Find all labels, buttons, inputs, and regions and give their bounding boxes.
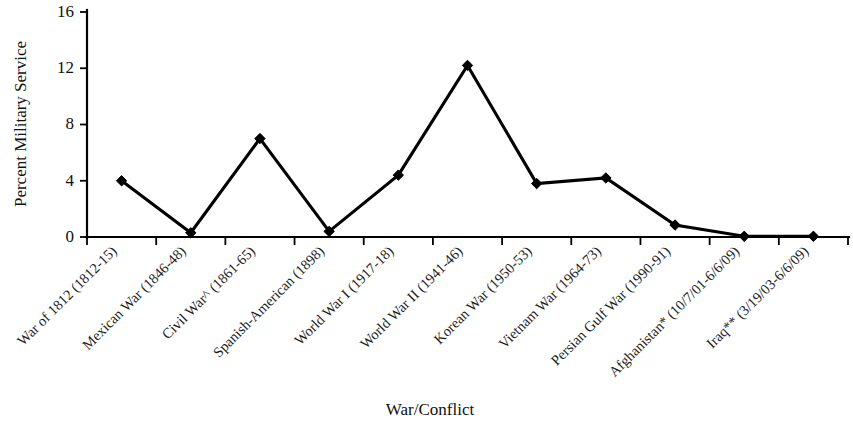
- line-chart: 0481216 War of 1812 (1812-15)Mexican War…: [0, 0, 853, 439]
- x-category-label: Spanish-American (1898): [210, 243, 328, 361]
- y-axis: 0481216: [57, 2, 87, 246]
- y-tick-label: 8: [66, 114, 75, 133]
- y-tick-label: 0: [66, 227, 75, 246]
- y-axis-title: Percent Military Service: [11, 41, 30, 207]
- x-axis: [86, 237, 849, 245]
- y-tick-label: 12: [57, 58, 74, 77]
- x-tick-group: [87, 237, 848, 245]
- y-tick-group: 0481216: [57, 2, 87, 246]
- x-category-label: Persian Gulf War (1990-91): [548, 243, 674, 369]
- data-point-marker: [808, 231, 818, 241]
- series-line-percent-military-service: [122, 65, 814, 236]
- data-point-marker: [739, 231, 749, 241]
- category-label-group: War of 1812 (1812-15)Mexican War (1846-4…: [14, 243, 813, 381]
- chart-container: 0481216 War of 1812 (1812-15)Mexican War…: [0, 0, 853, 439]
- x-axis-title: War/Conflict: [386, 400, 475, 419]
- y-tick-label: 4: [66, 171, 75, 190]
- marker-group: [116, 60, 818, 241]
- y-tick-label: 16: [57, 2, 74, 21]
- series-group: [116, 60, 818, 241]
- x-category-label: Afghanistan* (10/7/01-6/6/09): [605, 243, 743, 381]
